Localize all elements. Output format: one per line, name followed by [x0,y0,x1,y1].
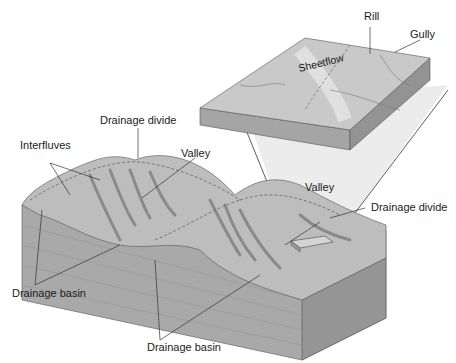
label-drainage-basin-bottom: Drainage basin [147,341,221,353]
label-drainage-basin-left: Drainage basin [12,287,86,299]
label-interfluves: Interfluves [20,139,71,151]
label-valley-right: Valley [305,181,334,193]
drainage-diagram [0,0,456,363]
label-gully: Gully [410,28,435,40]
label-rill: Rill [364,10,379,22]
label-valley-left: Valley [181,147,210,159]
label-drainage-divide-top: Drainage divide [100,114,176,126]
label-drainage-divide-right: Drainage divide [371,201,447,213]
